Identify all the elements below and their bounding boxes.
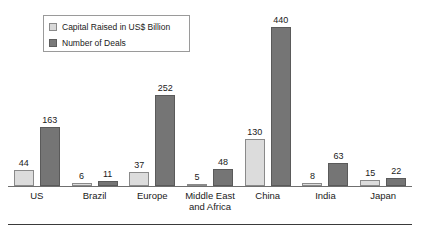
bar-groups: 44 163 6 11 37 252: [8, 10, 412, 186]
bar-group-europe: 37 252: [123, 10, 181, 186]
bar-rect-dark: [328, 163, 348, 186]
x-tick-line: India: [297, 190, 355, 201]
bar-rect-dark: [271, 27, 291, 186]
bar-group-china: 130 440: [239, 10, 297, 186]
x-tick-label-us: US: [8, 190, 66, 218]
bar-value-label: 11: [103, 169, 112, 179]
bar-china-capital: 130: [245, 10, 265, 186]
bar-value-label: 37: [134, 160, 144, 170]
bar-middle-east-capital: 5: [187, 10, 207, 186]
bar-value-label: 44: [19, 158, 29, 168]
bar-china-deals: 440: [271, 10, 291, 186]
bar-value-label: 22: [391, 166, 401, 176]
bar-japan-deals: 22: [386, 10, 406, 186]
x-tick-label-japan: Japan: [354, 190, 412, 218]
x-tick-label-china: China: [239, 190, 297, 218]
bar-europe-capital: 37: [129, 10, 149, 186]
x-axis-line: [8, 186, 412, 187]
bar-rect-dark: [40, 127, 60, 186]
bar-us-capital: 44: [14, 10, 34, 186]
bar-india-deals: 63: [328, 10, 348, 186]
bar-value-label: 63: [333, 151, 343, 161]
bar-value-label: 6: [79, 171, 84, 181]
bar-chart: Capital Raised in US$ Billion Number of …: [0, 0, 422, 234]
bar-group-japan: 15 22: [354, 10, 412, 186]
bar-group-brazil: 6 11: [66, 10, 124, 186]
bar-value-label: 130: [247, 127, 262, 137]
bar-group-middle-east-and-africa: 5 48: [181, 10, 239, 186]
bar-group-india: 8 63: [297, 10, 355, 186]
x-tick-label-brazil: Brazil: [66, 190, 124, 218]
x-tick-line: Europe: [123, 190, 181, 201]
bar-value-label: 15: [365, 168, 375, 178]
bar-rect-light: [129, 172, 149, 186]
bar-japan-capital: 15: [360, 10, 380, 186]
x-tick-line: Brazil: [66, 190, 124, 201]
bar-value-label: 5: [195, 172, 200, 182]
x-tick-label-europe: Europe: [123, 190, 181, 218]
x-tick-line: China: [239, 190, 297, 201]
bar-rect-light: [14, 170, 34, 186]
x-tick-label-middle-east-and-africa: Middle East and Africa: [181, 190, 239, 218]
bar-rect-dark: [213, 169, 233, 186]
x-tick-line: US: [8, 190, 66, 201]
bar-value-label: 252: [158, 83, 173, 93]
bar-rect-dark: [155, 95, 175, 186]
bar-value-label: 163: [42, 115, 57, 125]
bar-brazil-capital: 6: [72, 10, 92, 186]
bar-india-capital: 8: [302, 10, 322, 186]
bar-group-us: 44 163: [8, 10, 66, 186]
bar-rect-dark: [386, 178, 406, 186]
bar-brazil-deals: 11: [98, 10, 118, 186]
x-tick-label-india: India: [297, 190, 355, 218]
bar-us-deals: 163: [40, 10, 60, 186]
bar-rect-light: [245, 139, 265, 186]
x-tick-line: Middle East: [181, 190, 239, 201]
bar-value-label: 8: [310, 171, 315, 181]
x-tick-line: and Africa: [181, 201, 239, 212]
bar-value-label: 440: [273, 15, 288, 25]
bottom-divider: [8, 224, 412, 225]
x-tick-line: Japan: [354, 190, 412, 201]
bar-europe-deals: 252: [155, 10, 175, 186]
bar-middle-east-deals: 48: [213, 10, 233, 186]
x-axis-tick-labels: US Brazil Europe Middle East and Africa …: [8, 190, 412, 218]
bar-value-label: 48: [218, 157, 228, 167]
